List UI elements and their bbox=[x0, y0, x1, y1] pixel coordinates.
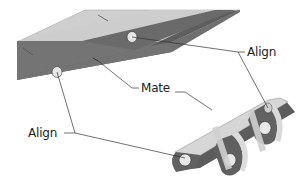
label-align-top: Align bbox=[247, 46, 276, 58]
leader-align-left-right bbox=[64, 133, 185, 158]
leader-mate-bracket bbox=[175, 92, 212, 110]
label-align-left: Align bbox=[28, 127, 57, 139]
beam-part bbox=[17, 10, 240, 80]
label-mate: Mate bbox=[141, 82, 170, 94]
leader-align-top-down bbox=[238, 52, 268, 108]
bracket-part bbox=[172, 98, 295, 176]
leader-align-left bbox=[57, 72, 75, 133]
